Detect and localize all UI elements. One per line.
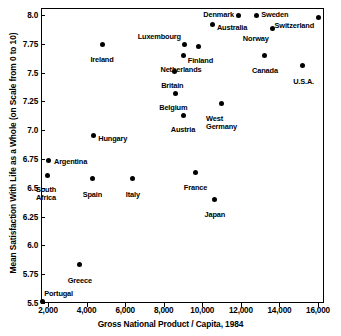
y-tick-mark (41, 101, 45, 102)
x-axis-title: Gross National Product / Capita, 1984 (0, 319, 341, 329)
data-point-label: Argentina (54, 158, 87, 166)
x-tick-mark (87, 303, 88, 307)
y-tick-label: 7.5 (27, 68, 38, 77)
x-tick-label: 4,000 (77, 306, 97, 315)
x-tick-mark (48, 303, 49, 307)
data-point-label: Spain (83, 191, 102, 199)
data-point-label: Norway (243, 35, 269, 43)
y-tick-label: 5.5 (27, 299, 38, 308)
y-tick-label: 7.25 (23, 97, 38, 106)
y-tick-label: 6.25 (23, 212, 38, 221)
data-point-label: Ireland (90, 56, 113, 64)
x-tick-label: 12,000 (229, 306, 253, 315)
data-point[interactable] (173, 91, 178, 96)
x-tick-mark (125, 303, 126, 307)
y-tick-label: 5.75 (23, 270, 38, 279)
y-tick-mark (41, 73, 45, 74)
data-point-label: West Germany (206, 115, 237, 131)
data-point[interactable] (254, 13, 259, 18)
data-point[interactable] (181, 53, 186, 58)
y-tick-label: 6.0 (27, 241, 38, 250)
data-point[interactable] (172, 69, 177, 74)
x-tick-label: 6,000 (115, 306, 135, 315)
y-tick-mark (41, 159, 45, 160)
data-point-label: Australia (217, 24, 247, 32)
x-tick-label: 16,000 (306, 306, 330, 315)
data-point-label: Italy (126, 191, 140, 199)
y-tick-label: 7.75 (23, 39, 38, 48)
x-tick-mark (279, 303, 280, 307)
data-point-label: Portugal (44, 290, 73, 298)
y-tick-mark (41, 15, 45, 16)
data-point-label: Hungary (98, 135, 127, 143)
data-point-label: Finland (188, 57, 213, 65)
data-point-label: South Africa (36, 186, 56, 202)
data-point-label: Belgium (159, 104, 187, 112)
y-tick-mark (41, 44, 45, 45)
data-point[interactable] (316, 15, 321, 20)
y-tick-mark (41, 245, 45, 246)
y-tick-mark (41, 130, 45, 131)
data-point-label: Sweden (261, 11, 288, 19)
x-tick-mark (318, 303, 319, 307)
x-tick-mark (241, 303, 242, 307)
x-tick-label: 14,000 (268, 306, 292, 315)
data-point-label: France (184, 184, 207, 192)
data-point[interactable] (181, 113, 186, 118)
data-point-label: Switzerland (275, 22, 314, 30)
data-point-label: Britain (161, 82, 183, 90)
data-point-label: U.S.A. (293, 78, 314, 86)
data-point-label: Luxembourg (138, 33, 181, 41)
y-tick-mark (41, 217, 45, 218)
data-point[interactable] (196, 44, 201, 49)
x-tick-mark (164, 303, 165, 307)
y-tick-mark (41, 274, 45, 275)
data-point[interactable] (45, 173, 50, 178)
data-point-label: Canada (252, 67, 278, 75)
y-tick-label: 7.0 (27, 126, 38, 135)
data-point[interactable] (90, 176, 95, 181)
x-tick-mark (202, 303, 203, 307)
data-point-label: Greece (68, 277, 92, 285)
data-point-label: Japan (205, 211, 226, 219)
data-point-label: Denmark (203, 11, 234, 19)
y-tick-label: 6.75 (23, 155, 38, 164)
y-tick-label: 8.0 (27, 11, 38, 20)
scatter-chart: 5.55.756.06.256.56.757.07.257.57.758.0 2… (0, 0, 341, 336)
x-tick-label: 2,000 (38, 306, 58, 315)
y-axis-title: Mean Satisfaction With Life as a Whole (… (8, 3, 18, 303)
data-point-label: Netherlands (160, 66, 201, 74)
y-axis-tick-labels: 5.55.756.06.256.56.757.07.257.57.758.0 (0, 0, 38, 336)
x-tick-label: 10,000 (190, 306, 214, 315)
x-tick-label: 8,000 (154, 306, 174, 315)
data-point-label: Austria (171, 126, 195, 134)
